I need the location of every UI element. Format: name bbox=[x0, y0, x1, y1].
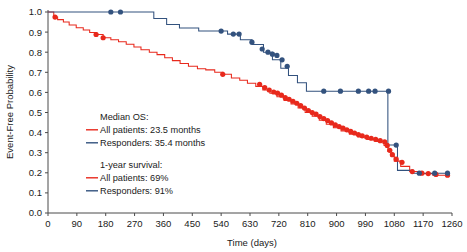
x-tick-label: 1260 bbox=[441, 218, 462, 229]
censor-marker bbox=[360, 133, 365, 138]
legend-heading: 1-year survival: bbox=[100, 160, 162, 170]
censor-marker bbox=[369, 136, 374, 141]
y-tick-label: 0.1 bbox=[29, 187, 42, 198]
censor-marker bbox=[321, 89, 326, 94]
censor-marker bbox=[387, 148, 392, 153]
x-tick-label: 1080 bbox=[384, 218, 405, 229]
censor-marker bbox=[378, 138, 383, 143]
y-tick-label: 1.0 bbox=[29, 6, 42, 17]
x-tick-label: 180 bbox=[98, 218, 114, 229]
censor-marker bbox=[366, 89, 371, 94]
y-axis-title: Event-Free Probability bbox=[4, 65, 15, 159]
censor-marker bbox=[394, 142, 399, 147]
censor-marker bbox=[399, 160, 404, 165]
censor-markers bbox=[52, 9, 450, 177]
censor-marker bbox=[265, 50, 270, 55]
censor-marker bbox=[390, 152, 395, 157]
censor-marker bbox=[94, 32, 99, 37]
censor-marker bbox=[260, 46, 265, 51]
x-tick-label: 990 bbox=[357, 218, 373, 229]
x-tick-label: 810 bbox=[300, 218, 316, 229]
x-tick-label: 450 bbox=[184, 218, 200, 229]
legend-row-label: All patients: 69% bbox=[100, 173, 168, 183]
censor-marker bbox=[279, 57, 284, 62]
censor-marker bbox=[394, 157, 399, 162]
censor-marker bbox=[356, 89, 361, 94]
x-tick-label: 360 bbox=[155, 218, 171, 229]
y-tick-label: 0.0 bbox=[29, 207, 42, 218]
legend-heading: Median OS: bbox=[100, 112, 149, 122]
y-tick-label: 0.2 bbox=[29, 167, 42, 178]
x-tick-label: 0 bbox=[45, 218, 50, 229]
censor-marker bbox=[270, 52, 275, 57]
censor-marker bbox=[257, 82, 262, 87]
censor-marker bbox=[364, 134, 369, 139]
x-axis-title: Time (days) bbox=[227, 237, 277, 248]
y-tick-label: 0.8 bbox=[29, 47, 42, 58]
x-tick-label: 720 bbox=[271, 218, 287, 229]
censor-marker bbox=[52, 14, 57, 19]
censor-marker bbox=[274, 53, 279, 58]
x-axis-ticks: 0901802703604505406307208109009901080117… bbox=[45, 213, 462, 229]
censor-marker bbox=[231, 32, 236, 37]
censor-marker bbox=[101, 35, 106, 40]
censor-marker bbox=[417, 171, 422, 176]
x-tick-label: 630 bbox=[242, 218, 258, 229]
censor-marker bbox=[219, 28, 224, 33]
censor-marker bbox=[108, 9, 113, 14]
y-tick-label: 0.6 bbox=[29, 87, 42, 98]
censor-marker bbox=[262, 85, 267, 90]
legend-row-label: All patients: 23.5 months bbox=[100, 125, 201, 135]
y-tick-label: 0.5 bbox=[29, 107, 42, 118]
censor-marker bbox=[118, 9, 123, 14]
censor-marker bbox=[267, 87, 272, 92]
legend-row-label: Responders: 91% bbox=[100, 186, 173, 196]
censor-marker bbox=[338, 89, 343, 94]
x-tick-label: 1170 bbox=[413, 218, 433, 229]
x-tick-label: 270 bbox=[127, 218, 143, 229]
censor-marker bbox=[410, 169, 415, 174]
x-tick-label: 900 bbox=[329, 218, 345, 229]
censor-marker bbox=[432, 171, 437, 176]
chart-legend: Median OS:All patients: 23.5 monthsRespo… bbox=[86, 112, 206, 196]
censor-marker bbox=[249, 40, 254, 45]
censor-marker bbox=[373, 137, 378, 142]
kaplan-meier-figure: 1.00.90.80.70.60.50.40.30.20.10.0 090180… bbox=[0, 0, 467, 252]
censor-marker bbox=[426, 171, 431, 176]
x-tick-label: 540 bbox=[213, 218, 229, 229]
survival-plot: 1.00.90.80.70.60.50.40.30.20.10.0 090180… bbox=[0, 0, 467, 252]
censor-marker bbox=[386, 89, 391, 94]
y-tick-label: 0.9 bbox=[29, 27, 42, 38]
censor-marker bbox=[445, 171, 450, 176]
censor-marker bbox=[385, 143, 390, 148]
y-tick-label: 0.7 bbox=[29, 67, 42, 78]
y-tick-label: 0.4 bbox=[29, 127, 42, 138]
y-tick-label: 0.3 bbox=[29, 147, 42, 158]
x-tick-label: 90 bbox=[72, 218, 83, 229]
censor-marker bbox=[372, 89, 377, 94]
censor-marker bbox=[220, 72, 225, 77]
legend-row-label: Responders: 35.4 months bbox=[100, 138, 206, 148]
y-axis-ticks: 1.00.90.80.70.60.50.40.30.20.10.0 bbox=[29, 6, 48, 218]
censor-marker bbox=[285, 64, 290, 69]
censor-marker bbox=[237, 32, 242, 37]
